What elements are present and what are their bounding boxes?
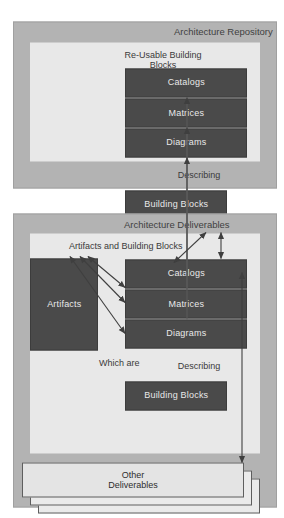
deliverables-other-link [174,232,206,262]
artifacts-matrices-link [80,256,125,302]
artifacts-catalogs-link [88,256,125,287]
